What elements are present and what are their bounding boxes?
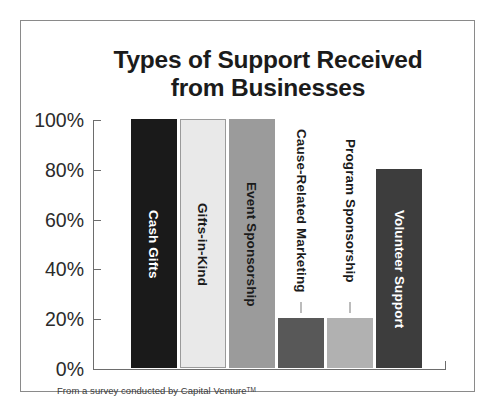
label-leader-line [350,302,351,313]
trademark-symbol: TM [247,386,257,393]
bar-label: Cause-Related Marketing [294,125,309,297]
chart-title: Types of Support Received from Businesse… [43,46,493,102]
y-axis-tick [93,369,101,370]
y-axis-label: 20% [45,308,84,331]
y-axis-tick [93,120,101,121]
plot-area: 100%80%60%40%20%0% Cash GiftsGifts-in-Ki… [93,120,446,369]
bar-program-sponsorship[interactable] [327,318,373,368]
chart-title-line-1: Types of Support Received [43,46,493,74]
x-axis-line [93,369,446,370]
chart-title-line-2: from Businesses [43,74,493,102]
x-axis-end-tick [445,361,446,370]
y-axis-label: 80% [45,158,84,181]
chart-figure: Types of Support Received from Businesse… [0,0,497,420]
footnote-text: From a survey conducted by Capital Ventu… [57,385,247,396]
bar-cause-related-marketing[interactable] [278,318,324,368]
y-axis-tick [93,220,101,221]
bar-label: Volunteer Support [392,170,407,369]
y-axis-label: 100% [34,109,84,132]
bar-label: Program Sponsorship [343,125,358,297]
label-leader-line [301,302,302,313]
y-axis-tick [93,319,101,320]
bar-label: Gifts-in-Kind [195,120,210,369]
bar-label: Cash Gifts [146,120,161,369]
bar-label: Event Sponsorship [244,120,259,369]
y-axis-label: 40% [45,258,84,281]
y-axis-label: 0% [56,358,84,381]
y-axis-line [93,120,94,370]
y-axis-label: 60% [45,208,84,231]
y-axis-tick [93,269,101,270]
y-axis-tick [93,170,101,171]
chart-footnote: From a survey conducted by Capital Ventu… [57,385,256,396]
chart-frame: Types of Support Received from Businesse… [20,20,475,392]
